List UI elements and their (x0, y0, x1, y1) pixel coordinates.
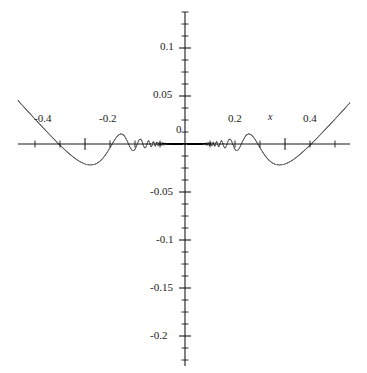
origin-label: 0 (176, 124, 182, 135)
x-tick-label-pos-0-2: 0.2 (228, 113, 242, 124)
y-tick-label-neg-0-15: -0.15 (150, 282, 173, 293)
y-tick-label-0-1: 0.1 (160, 41, 174, 52)
y-tick-label-neg-0-05: -0.05 (150, 186, 173, 197)
x-axis-label: x (268, 111, 272, 122)
data-curve (18, 101, 350, 165)
x-tick-label-neg-0-2: -0.2 (99, 113, 116, 124)
axes-group (18, 12, 350, 366)
y-tick-label-neg-0-2: -0.2 (150, 330, 167, 341)
y-tick-label-0-05: 0.05 (153, 89, 172, 100)
plot-canvas: -0.4 -0.2 0.2 0.4 0 0.1 0.05 -0.05 -0.1 … (0, 0, 367, 373)
x-tick-label-neg-0-4: -0.4 (34, 113, 51, 124)
x-tick-label-pos-0-4: 0.4 (303, 113, 317, 124)
y-tick-label-neg-0-1: -0.1 (156, 234, 173, 245)
chart-svg (0, 0, 367, 373)
